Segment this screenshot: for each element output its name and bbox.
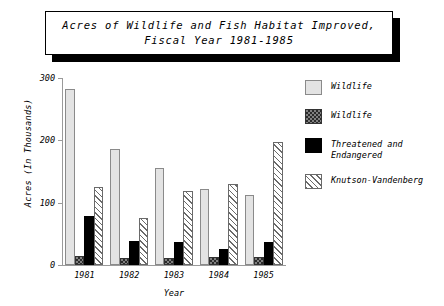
- bar: [94, 187, 104, 265]
- bar-group: [241, 78, 286, 265]
- bars-layer: [62, 78, 286, 265]
- bar: [174, 242, 184, 265]
- y-tick-label: 0: [29, 260, 55, 270]
- legend-label: Threatened and Endangered: [331, 138, 440, 160]
- bar: [164, 258, 174, 265]
- bar: [219, 249, 229, 265]
- bar: [65, 89, 75, 265]
- legend-label: Wildlife: [331, 80, 372, 92]
- bar-group: [152, 78, 197, 265]
- bar: [84, 216, 94, 265]
- bar: [110, 149, 120, 265]
- bar: [183, 191, 193, 265]
- x-axis-label: Year: [62, 288, 286, 298]
- bar: [264, 242, 274, 265]
- legend-swatch: [305, 174, 322, 189]
- bar-group: [62, 78, 107, 265]
- bar: [120, 258, 130, 265]
- x-tick-label: 1983: [152, 270, 196, 280]
- x-tick-label: 1982: [107, 270, 151, 280]
- legend-item: Wildlife: [305, 109, 440, 124]
- y-axis-label: Acres (In Thousands): [23, 78, 33, 228]
- legend-swatch: [305, 109, 322, 124]
- legend-item: Threatened and Endangered: [305, 138, 440, 160]
- bar: [139, 218, 149, 265]
- chart-page: Acres of Wildlife and Fish Habitat Impro…: [0, 0, 444, 306]
- legend-swatch: [305, 138, 322, 153]
- bar: [228, 184, 238, 265]
- legend-label: Knutson-Vandenberg: [331, 174, 423, 186]
- bar: [155, 168, 165, 265]
- legend-label: Wildlife: [331, 109, 372, 121]
- bar: [245, 195, 255, 265]
- bar: [75, 256, 85, 265]
- x-axis-line: [62, 265, 286, 266]
- bar: [200, 189, 210, 265]
- bar-group: [107, 78, 152, 265]
- bar: [129, 241, 139, 265]
- chart-legend: WildlifeWildlifeThreatened and Endangere…: [305, 80, 440, 203]
- legend-item: Knutson-Vandenberg: [305, 174, 440, 189]
- bar: [209, 257, 219, 265]
- legend-swatch: [305, 80, 322, 95]
- y-tick-mark: [58, 265, 62, 266]
- bar: [273, 142, 283, 265]
- bar: [254, 257, 264, 265]
- x-tick-label: 1985: [242, 270, 286, 280]
- x-tick-label: 1981: [62, 270, 106, 280]
- x-tick-label: 1984: [197, 270, 241, 280]
- bar-group: [196, 78, 241, 265]
- legend-item: Wildlife: [305, 80, 440, 95]
